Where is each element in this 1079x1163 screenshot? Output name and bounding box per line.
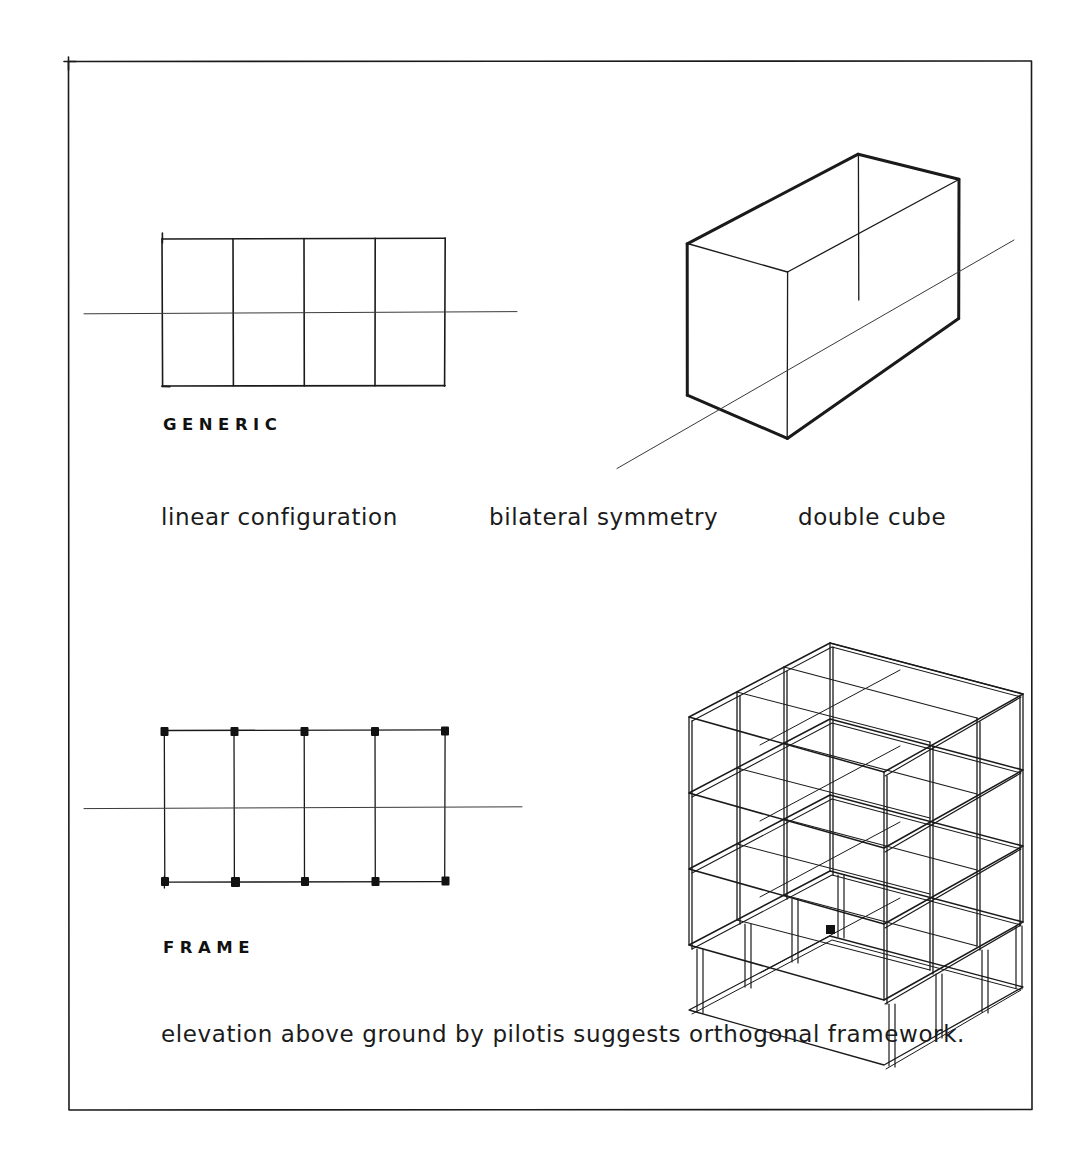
inner-bottom-edge [787, 319, 958, 438]
frame-level-2 [689, 795, 1023, 928]
frame-axonometric [689, 643, 1023, 1069]
frame-level-3 [689, 719, 1023, 852]
inner-bottom-left-edge [688, 395, 788, 438]
frame-level-1 [689, 871, 1023, 1004]
drawing-layer: .ink { stroke: #1a1a1a; fill: none; stro… [0, 0, 1079, 1163]
caption-bilateral-symmetry: bilateral symmetry [489, 504, 718, 530]
caption-frame-description: elevation above ground by pilotis sugges… [161, 1021, 965, 1047]
frame-ground-plane [689, 936, 1023, 1069]
outer-top-left-edge [687, 154, 858, 244]
frame-plan-diagram [84, 727, 522, 889]
inner-top-left-edge [687, 244, 787, 273]
outer-top-right-edge [858, 154, 959, 179]
frame-level-4 [689, 643, 1023, 776]
section-heading-frame: FRAME [163, 938, 255, 957]
column-markers [161, 727, 450, 888]
outer-bottom-right-edge [787, 319, 958, 439]
inner-top-edge [788, 180, 959, 273]
frame-node-marker [826, 925, 835, 934]
section-heading-generic: GENERIC [163, 415, 282, 434]
double-cube-axonometric [617, 154, 1014, 468]
sketch-sheet: .ink { stroke: #1a1a1a; fill: none; stro… [0, 0, 1079, 1163]
symmetry-axis [84, 312, 517, 314]
frame-columns-front [884, 694, 1023, 1004]
axonometric-axis [617, 240, 1014, 469]
generic-plan-diagram [84, 233, 517, 387]
frame-columns-back [689, 643, 833, 949]
symmetry-axis [84, 807, 522, 809]
caption-linear-configuration: linear configuration [161, 504, 398, 530]
outer-bottom-left-edge [687, 395, 787, 438]
caption-double-cube: double cube [798, 504, 946, 530]
